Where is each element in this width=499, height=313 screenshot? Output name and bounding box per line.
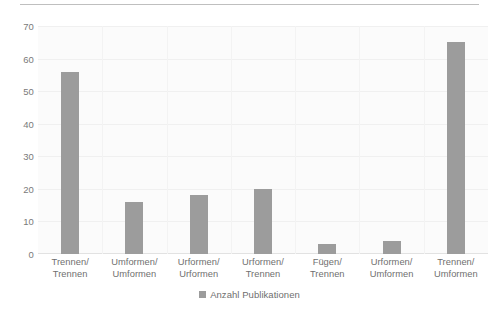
y-axis-tick-label: 0 [0,249,34,260]
plot-area [38,26,488,254]
header-divider [20,4,479,5]
bar-slot [295,26,359,254]
bar[interactable] [383,241,401,254]
legend-label: Anzahl Publikationen [210,289,300,300]
bar-slot [38,26,102,254]
chart-legend: Anzahl Publikationen [0,289,499,300]
bar-chart: 010203040506070 Trennen/TrennenUmformen/… [0,0,499,313]
y-axis-tick-label: 30 [0,151,34,162]
bar[interactable] [125,202,143,254]
x-axis-tick-label: Urformen/Urformen [167,257,231,280]
bar-slot [102,26,166,254]
bar[interactable] [190,195,208,254]
y-axis: 010203040506070 [0,26,34,254]
x-axis: Trennen/TrennenUmformen/UmformenUrformen… [38,257,488,287]
bar[interactable] [254,189,272,254]
y-axis-tick-label: 20 [0,183,34,194]
x-axis-tick-label: Urformen/Umformen [359,257,423,280]
bar[interactable] [447,42,465,254]
bar[interactable] [318,244,336,254]
bar-slot [167,26,231,254]
x-axis-tick-label: Umformen/Umformen [102,257,166,280]
y-axis-tick-label: 70 [0,21,34,32]
bar[interactable] [61,72,79,254]
x-axis-tick-label: Urformen/Trennen [231,257,295,280]
bar-series-anzahl-publikationen [38,26,488,254]
bar-slot [424,26,488,254]
y-axis-tick-label: 60 [0,53,34,64]
y-axis-tick-label: 40 [0,118,34,129]
bar-slot [231,26,295,254]
x-axis-tick-label: Fügen/ Trennen [295,257,359,280]
bar-slot [359,26,423,254]
x-axis-tick-label: Trennen/Umformen [424,257,488,280]
y-axis-tick-label: 50 [0,86,34,97]
y-axis-tick-label: 10 [0,216,34,227]
legend-swatch-icon [199,291,206,298]
x-axis-tick-label: Trennen/Trennen [38,257,102,280]
